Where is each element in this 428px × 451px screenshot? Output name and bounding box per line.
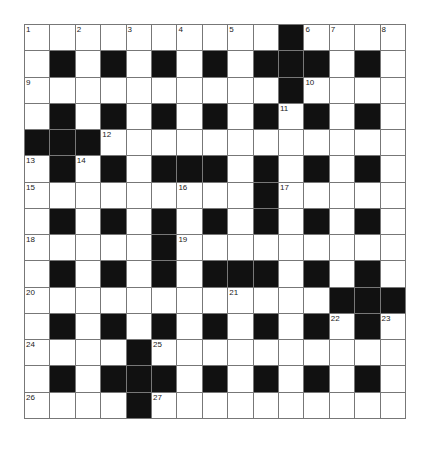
crossword-cell[interactable] [381,340,405,365]
crossword-cell[interactable] [355,235,379,260]
crossword-cell[interactable] [330,393,354,418]
crossword-cell[interactable] [50,288,74,313]
crossword-cell[interactable] [101,393,125,418]
crossword-cell[interactable] [304,235,328,260]
crossword-cell[interactable] [279,209,303,234]
crossword-cell[interactable] [25,314,49,339]
crossword-cell[interactable] [76,261,100,286]
crossword-cell[interactable] [177,104,201,129]
crossword-cell[interactable]: 20 [25,288,49,313]
crossword-cell[interactable] [279,393,303,418]
crossword-cell[interactable] [76,104,100,129]
crossword-cell[interactable] [76,183,100,208]
crossword-cell[interactable] [304,393,328,418]
crossword-cell[interactable]: 5 [228,25,252,50]
crossword-cell[interactable] [228,130,252,155]
crossword-cell[interactable] [127,156,151,181]
crossword-cell[interactable] [381,393,405,418]
crossword-cell[interactable] [381,209,405,234]
crossword-cell[interactable] [254,25,278,50]
crossword-cell[interactable] [381,104,405,129]
crossword-cell[interactable] [381,183,405,208]
crossword-cell[interactable] [177,314,201,339]
crossword-cell[interactable] [279,314,303,339]
crossword-cell[interactable] [381,261,405,286]
crossword-cell[interactable] [25,104,49,129]
crossword-cell[interactable] [304,340,328,365]
crossword-cell[interactable] [50,183,74,208]
crossword-cell[interactable] [381,78,405,103]
crossword-cell[interactable] [127,183,151,208]
crossword-cell[interactable] [279,235,303,260]
crossword-cell[interactable] [203,235,227,260]
crossword-cell[interactable] [127,104,151,129]
crossword-cell[interactable] [355,393,379,418]
crossword-cell[interactable] [330,51,354,76]
crossword-cell[interactable] [152,288,176,313]
crossword-cell[interactable] [228,104,252,129]
crossword-cell[interactable] [279,366,303,391]
crossword-cell[interactable] [76,340,100,365]
crossword-cell[interactable] [203,393,227,418]
crossword-cell[interactable] [279,156,303,181]
crossword-cell[interactable] [177,288,201,313]
crossword-cell[interactable] [355,183,379,208]
crossword-cell[interactable]: 7 [330,25,354,50]
crossword-cell[interactable] [25,366,49,391]
crossword-cell[interactable] [177,366,201,391]
crossword-cell[interactable] [101,78,125,103]
crossword-cell[interactable] [76,393,100,418]
crossword-cell[interactable]: 10 [304,78,328,103]
crossword-cell[interactable] [381,366,405,391]
crossword-cell[interactable]: 21 [228,288,252,313]
crossword-cell[interactable] [279,288,303,313]
crossword-cell[interactable] [101,25,125,50]
crossword-cell[interactable] [355,130,379,155]
crossword-cell[interactable]: 24 [25,340,49,365]
crossword-cell[interactable] [177,340,201,365]
crossword-cell[interactable] [330,366,354,391]
crossword-cell[interactable] [330,261,354,286]
crossword-cell[interactable] [177,393,201,418]
crossword-cell[interactable] [177,209,201,234]
crossword-cell[interactable] [25,209,49,234]
crossword-cell[interactable]: 23 [381,314,405,339]
crossword-cell[interactable] [76,78,100,103]
crossword-cell[interactable]: 8 [381,25,405,50]
crossword-cell[interactable] [203,25,227,50]
crossword-cell[interactable] [228,314,252,339]
crossword-cell[interactable]: 12 [101,130,125,155]
crossword-cell[interactable] [203,183,227,208]
crossword-cell[interactable] [76,366,100,391]
crossword-cell[interactable] [381,156,405,181]
crossword-cell[interactable] [279,261,303,286]
crossword-cell[interactable]: 18 [25,235,49,260]
crossword-cell[interactable] [177,130,201,155]
crossword-cell[interactable] [254,78,278,103]
crossword-cell[interactable] [330,183,354,208]
crossword-cell[interactable] [228,51,252,76]
crossword-cell[interactable] [76,288,100,313]
crossword-cell[interactable]: 25 [152,340,176,365]
crossword-cell[interactable]: 11 [279,104,303,129]
crossword-cell[interactable] [50,393,74,418]
crossword-cell[interactable] [50,340,74,365]
crossword-cell[interactable] [355,78,379,103]
crossword-cell[interactable] [254,288,278,313]
crossword-cell[interactable]: 13 [25,156,49,181]
crossword-cell[interactable] [177,261,201,286]
crossword-cell[interactable]: 14 [76,156,100,181]
crossword-cell[interactable]: 9 [25,78,49,103]
crossword-cell[interactable]: 16 [177,183,201,208]
crossword-cell[interactable] [127,51,151,76]
crossword-cell[interactable] [203,288,227,313]
crossword-cell[interactable] [127,130,151,155]
crossword-cell[interactable] [177,78,201,103]
crossword-cell[interactable] [152,25,176,50]
crossword-cell[interactable] [152,78,176,103]
crossword-cell[interactable] [330,78,354,103]
crossword-cell[interactable] [152,130,176,155]
crossword-cell[interactable] [76,51,100,76]
crossword-cell[interactable] [279,340,303,365]
crossword-cell[interactable] [304,183,328,208]
